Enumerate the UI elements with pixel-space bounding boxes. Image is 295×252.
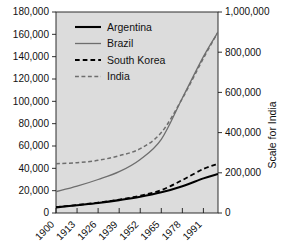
legend-label: South Korea [107,54,166,66]
legend-label: India [107,70,130,82]
left-tick-label: 0 [43,207,49,218]
legend-label: Brazil [107,37,133,49]
left-tick-label: 140,000 [13,51,50,62]
right-tick-label: 600,000 [225,87,262,98]
right-tick-label: 800,000 [225,47,262,58]
right-tick-label: 1,000,000 [225,6,270,17]
left-tick-label: 20,000 [18,185,49,196]
left-tick-label: 80,000 [18,118,49,129]
left-tick-label: 160,000 [13,29,50,40]
right-tick-label: 200,000 [225,167,262,178]
right-axis-title: Scale for India [266,101,278,168]
right-tick-label: 400,000 [225,127,262,138]
population-line-chart: 020,00040,00060,00080,000100,000120,0001… [0,0,295,252]
left-tick-label: 100,000 [13,96,50,107]
right-tick-label: 0 [225,207,231,218]
left-tick-label: 60,000 [18,140,49,151]
left-tick-label: 40,000 [18,163,49,174]
legend-label: Argentina [107,21,152,33]
left-tick-label: 180,000 [13,6,50,17]
left-tick-label: 120,000 [13,73,50,84]
